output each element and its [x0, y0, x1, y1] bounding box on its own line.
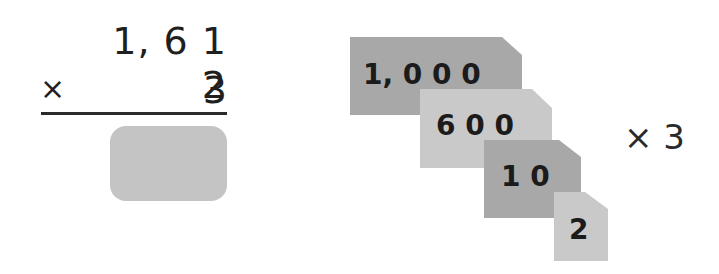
multiply-sign: ×	[40, 74, 65, 104]
multiplier: 3	[190, 70, 227, 110]
answer-rule-line	[41, 112, 227, 115]
card-label: 6 0 0	[436, 112, 514, 140]
card-label: 1 0	[501, 163, 550, 191]
place-value-card-ones: 2	[554, 192, 608, 261]
answer-box[interactable]	[110, 126, 227, 201]
card-label: 1, 0 0 0	[363, 61, 481, 89]
cards-multiplier: × 3	[624, 117, 685, 157]
card-label: 2	[569, 216, 588, 244]
